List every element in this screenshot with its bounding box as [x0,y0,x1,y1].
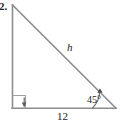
triangle-hypotenuse [13,5,117,108]
triangle-figure: 2. h 12 45° [0,0,123,125]
angle-measure-label: 45° [87,95,101,105]
base-length-label: 12 [57,111,68,122]
problem-number-label: 2. [0,1,7,12]
hypotenuse-length-label: h [67,42,73,53]
triangle-diagram-svg [0,0,123,125]
